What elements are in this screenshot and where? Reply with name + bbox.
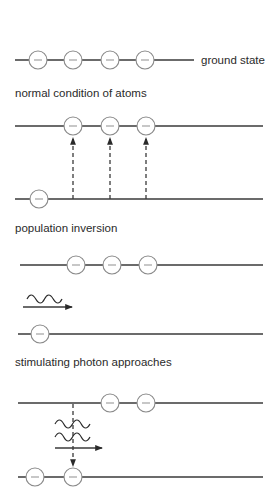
panel-ground-state: ground state normal condition of atoms <box>15 51 265 99</box>
atom-icon <box>101 51 119 69</box>
atom-icon <box>26 468 44 486</box>
atom-icon <box>101 117 119 135</box>
atom-icon <box>101 394 119 412</box>
atom-icon <box>139 256 157 274</box>
atom-icon <box>136 51 154 69</box>
atom-icon <box>30 190 48 208</box>
atom-icon <box>64 117 82 135</box>
atom-icon <box>67 256 85 274</box>
atom-icon <box>31 325 49 343</box>
atom-icon <box>103 256 121 274</box>
photon-wave-icon <box>27 295 62 303</box>
atom-icon <box>64 468 82 486</box>
atom-icon <box>64 51 82 69</box>
panel-emission <box>18 394 263 486</box>
atom-icon <box>137 394 155 412</box>
caption-population-inversion: population inversion <box>15 222 117 234</box>
panel-inversion: stimulating photon approaches <box>15 256 263 368</box>
panel-excitation: population inversion <box>15 117 263 234</box>
laser-diagram: ground state normal condition of atoms p… <box>0 0 280 500</box>
caption-stimulating-photon: stimulating photon approaches <box>15 356 172 368</box>
caption-normal-condition: normal condition of atoms <box>15 87 147 99</box>
ground-state-label: ground state <box>201 54 265 66</box>
atom-icon <box>137 117 155 135</box>
atom-icon <box>29 51 47 69</box>
